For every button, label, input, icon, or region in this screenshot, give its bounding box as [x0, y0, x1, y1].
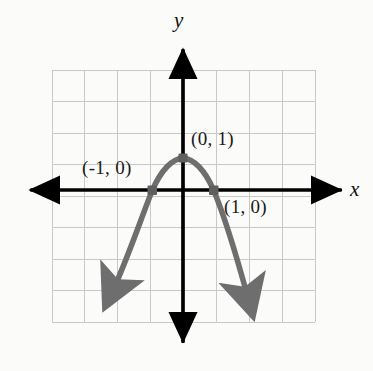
left-intercept-label: (-1, 0)	[82, 157, 132, 179]
root-right-marker	[209, 186, 219, 196]
x-axis-label: x	[350, 177, 359, 202]
parabola-figure: (0, 1) (-1, 0) (1, 0) y x	[0, 0, 373, 371]
y-axis-label: y	[174, 8, 183, 33]
right-intercept-label: (1, 0)	[224, 196, 267, 218]
root-left-marker	[148, 186, 158, 196]
vertex-marker	[179, 154, 188, 163]
graph-canvas	[0, 0, 373, 371]
vertex-point-label: (0, 1)	[191, 128, 234, 150]
